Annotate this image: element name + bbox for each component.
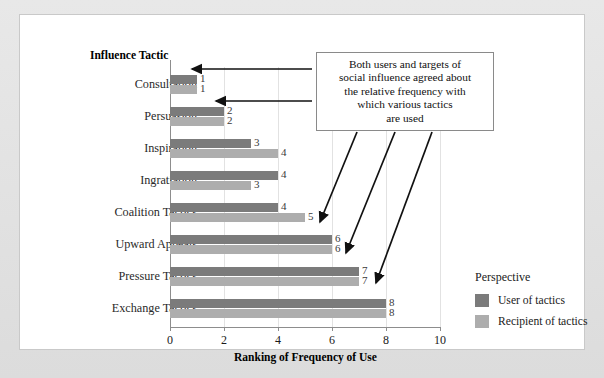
bar-value-label: 4 <box>281 200 287 212</box>
tick-mark <box>440 327 441 331</box>
legend-swatch <box>475 294 489 307</box>
legend-entry[interactable]: User of tactics <box>475 294 588 307</box>
x-tick-label: 8 <box>371 333 401 348</box>
bar-row: Consultation11 <box>20 71 586 101</box>
bar-value-label: 4 <box>281 168 287 180</box>
bar-row: Inspiration34 <box>20 135 586 165</box>
tick-mark <box>332 327 333 331</box>
legend-swatch <box>475 315 489 328</box>
x-tick-label: 10 <box>425 333 455 348</box>
y-axis-title: Influence Tactic <box>90 49 168 61</box>
bar-user <box>170 171 278 180</box>
bar-user <box>170 139 251 148</box>
bar-row: Upward Appeals66 <box>20 231 586 261</box>
x-tick-label: 6 <box>317 333 347 348</box>
x-tick-label: 0 <box>155 333 185 348</box>
bar-value-label: 5 <box>308 210 314 222</box>
bar-recipient <box>170 309 386 318</box>
bar-row: Coalition Tactics45 <box>20 199 586 229</box>
legend-entries: User of tacticsRecipient of tactics <box>475 294 588 328</box>
bar-recipient <box>170 117 224 126</box>
bar-recipient <box>170 277 359 286</box>
figure-background: Influence Tactic 0246810 Consultation11P… <box>0 0 604 378</box>
legend-label: User of tactics <box>498 294 565 307</box>
bar-value-label: 1 <box>200 82 206 94</box>
x-axis-title: Ranking of Frequency of Use <box>170 351 441 363</box>
tick-mark <box>386 327 387 331</box>
bar-value-label: 7 <box>362 274 368 286</box>
bar-recipient <box>170 149 278 158</box>
legend-entry[interactable]: Recipient of tactics <box>475 315 588 328</box>
bar-row: Ingratiation43 <box>20 167 586 197</box>
bar-value-label: 3 <box>254 178 260 190</box>
bar-user <box>170 203 278 212</box>
x-tick-label: 2 <box>209 333 239 348</box>
bar-value-label: 6 <box>335 242 341 254</box>
legend-title: Perspective <box>475 270 588 285</box>
bar-value-label: 2 <box>227 114 233 126</box>
bar-recipient <box>170 245 332 254</box>
bar-recipient <box>170 85 197 94</box>
x-axis-line <box>170 327 441 328</box>
bar-value-label: 4 <box>281 146 287 158</box>
bar-user <box>170 267 359 276</box>
bar-user <box>170 107 224 116</box>
legend-label: Recipient of tactics <box>498 315 588 328</box>
bar-value-label: 8 <box>389 306 395 318</box>
bar-user <box>170 235 332 244</box>
annotation-text: Both users and targets ofsocial influenc… <box>339 58 471 126</box>
tick-mark <box>224 327 225 331</box>
bar-value-label: 3 <box>254 136 260 148</box>
legend: Perspective User of tacticsRecipient of … <box>475 270 588 336</box>
bar-user <box>170 75 197 84</box>
annotation-callout: Both users and targets ofsocial influenc… <box>316 52 494 131</box>
chart-panel: Influence Tactic 0246810 Consultation11P… <box>19 14 585 350</box>
bar-row: Persuasion22 <box>20 103 586 133</box>
tick-mark <box>278 327 279 331</box>
bar-user <box>170 299 386 308</box>
tick-mark <box>170 327 171 331</box>
bar-recipient <box>170 213 305 222</box>
x-tick-label: 4 <box>263 333 293 348</box>
bar-recipient <box>170 181 251 190</box>
